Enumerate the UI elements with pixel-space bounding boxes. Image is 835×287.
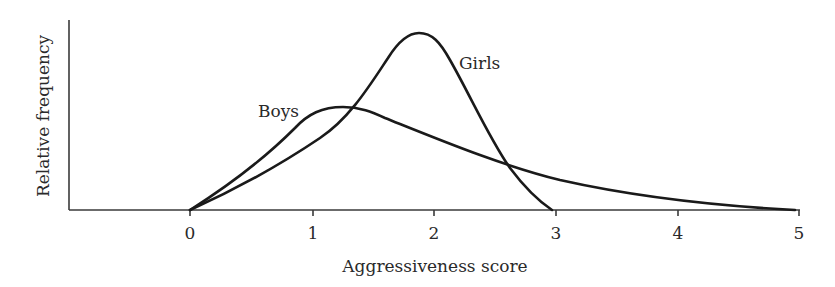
- x-tick-labels: 0 1 2 3 4 5: [185, 223, 805, 243]
- x-tick-label: 2: [429, 223, 440, 243]
- boys-curve: [190, 107, 795, 210]
- x-tick-label: 3: [551, 223, 562, 243]
- girls-label: Girls: [459, 53, 500, 73]
- x-tick-label: 0: [185, 223, 196, 243]
- y-axis-title: Relative frequency: [33, 34, 53, 197]
- x-axis-ticks: [190, 210, 799, 216]
- distribution-chart: 0 1 2 3 4 5 Aggressiveness score Relativ…: [0, 0, 835, 287]
- x-tick-label: 5: [794, 223, 805, 243]
- boys-label: Boys: [258, 101, 299, 121]
- x-axis-title: Aggressiveness score: [341, 256, 527, 276]
- x-tick-label: 4: [673, 223, 684, 243]
- x-tick-label: 1: [308, 223, 319, 243]
